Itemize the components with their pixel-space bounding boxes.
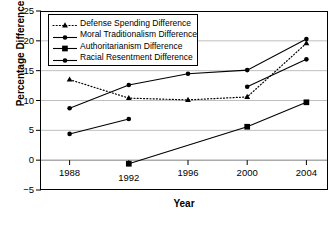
data-point (127, 117, 132, 122)
x-tick-label-1996: 1996 (165, 167, 211, 178)
data-point (126, 95, 132, 100)
data-point (186, 71, 191, 76)
legend-label: Authoritarianism Difference (78, 41, 182, 51)
x-tick-label-2000: 2000 (224, 167, 270, 178)
legend-item-authoritarianism: Authoritarianism Difference (52, 40, 194, 52)
legend-marker-square-solid-icon (52, 40, 78, 51)
series-racial-resentment (67, 57, 308, 136)
y-tick-label-20: 20 (8, 36, 34, 46)
y-axis-ticks (36, 11, 41, 190)
legend-marker-triangle-dotted-icon (52, 17, 78, 28)
y-tick-label-5: 5 (8, 125, 34, 135)
legend-marker-circle-solid-2-icon (52, 52, 78, 63)
data-point (245, 84, 250, 89)
series-authoritarianism (126, 99, 309, 166)
y-tick-label-15: 15 (8, 66, 34, 76)
data-point (304, 57, 309, 62)
legend-label: Racial Resentment Difference (78, 52, 193, 62)
x-tick-label-2004: 2004 (283, 167, 329, 178)
data-point (67, 106, 72, 111)
x-axis-ticks (70, 160, 307, 165)
legend-item-defense-spending: Defense Spending Difference (52, 17, 194, 29)
legend-marker-circle-solid-icon (52, 29, 78, 40)
data-point (304, 99, 310, 105)
series-line-racial-2 (247, 59, 306, 86)
x-tick-label-1988: 1988 (47, 167, 93, 178)
y-tick-label-25: 25 (8, 6, 34, 16)
legend-label: Defense Spending Difference (78, 18, 191, 28)
x-axis-title: Year (40, 198, 328, 209)
data-point (244, 124, 250, 130)
x-tick-label-1992: 1992 (106, 172, 152, 183)
series-line-authoritarianism (129, 102, 307, 163)
legend-label: Moral Traditionalism Difference (78, 29, 197, 39)
chart-figure: Percentage Difference (0, 0, 336, 225)
y-tick-label-0: 0 (8, 155, 34, 165)
data-point (127, 83, 132, 88)
legend-item-moral-traditionalism: Moral Traditionalism Difference (52, 29, 194, 41)
data-point (67, 132, 72, 137)
legend: Defense Spending Difference Moral Tradit… (48, 14, 198, 66)
data-point (126, 161, 132, 167)
y-tick-label-10: 10 (8, 96, 34, 106)
data-point (67, 76, 73, 81)
data-point (245, 68, 250, 73)
y-tick-label-minus5: −5 (8, 185, 34, 195)
series-line-racial (70, 119, 129, 134)
legend-item-racial-resentment: Racial Resentment Difference (52, 52, 194, 64)
